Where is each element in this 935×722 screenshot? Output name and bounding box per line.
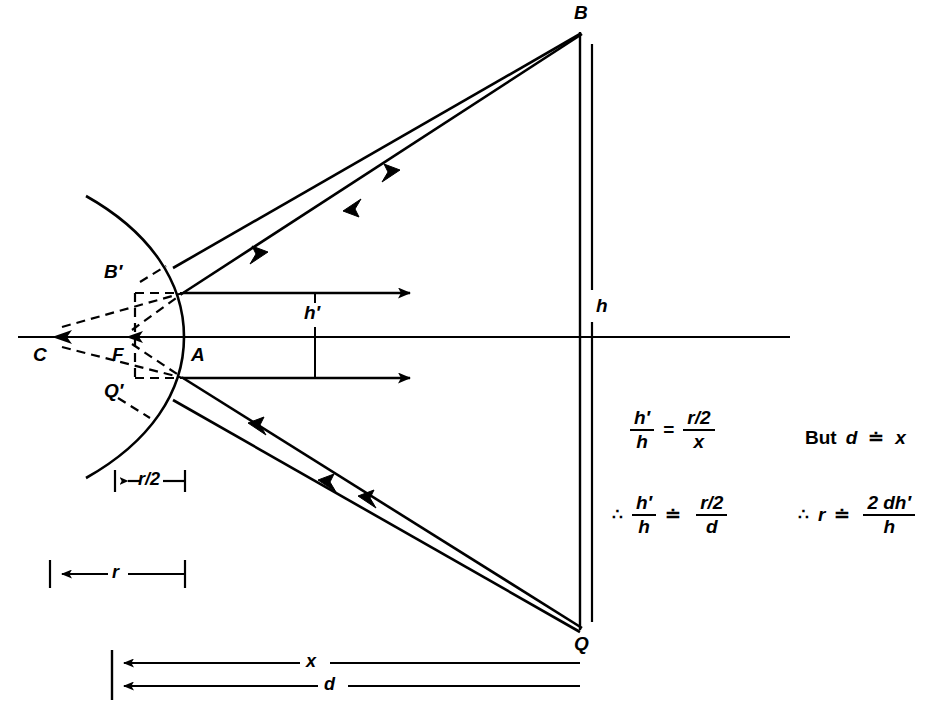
eq4-rhs-numerator: 2 dh′ <box>863 493 915 514</box>
equation-block: h′ h = r/2 x But d ≐ x ∴ <box>612 408 932 558</box>
dashed-qprime-extension <box>118 398 150 418</box>
fraction-h-prime-over-h-2: h′ h <box>632 493 656 537</box>
eq2-right: x <box>895 427 906 449</box>
fraction-h-prime-over-h: h′ h <box>630 408 654 452</box>
eq3-rhs-denominator: d <box>696 514 727 537</box>
lower-ray-pair <box>173 378 582 632</box>
equation-1: h′ h = r/2 x <box>630 408 715 452</box>
eq4-rhs-denominator: h <box>863 514 915 537</box>
upper-reflected-ray <box>183 34 582 293</box>
object-and-h-lines <box>580 32 592 630</box>
figure-canvas: B Q A C F B′ Q′ h h′ r/2 r x d h′ h = r/… <box>0 0 935 722</box>
upper-ray-pair <box>173 34 582 293</box>
eq2-relation: ≐ <box>866 426 886 449</box>
label-point-A: A <box>191 345 205 364</box>
upper-incident-arrowhead <box>382 164 400 182</box>
label-x: x <box>306 652 316 670</box>
equation-2: But d ≐ x <box>805 426 906 449</box>
upper-ray-arrowheads <box>250 164 400 264</box>
dashed-f-to-mirror-top <box>132 293 183 330</box>
label-point-Q: Q <box>574 634 589 653</box>
equation-3: ∴ h′ h ≐ r/2 d <box>612 493 727 537</box>
lower-incident-ray <box>173 400 580 632</box>
dashed-bprime-extension <box>140 266 166 282</box>
eq1-lhs-denominator: h <box>630 429 654 452</box>
eq3-therefore: ∴ <box>612 504 623 525</box>
eq1-rhs-numerator: r/2 <box>683 408 714 429</box>
eq1-lhs-numerator: h′ <box>630 408 654 429</box>
eq4-therefore: ∴ <box>798 504 809 525</box>
eq2-left: d <box>846 427 858 449</box>
dashed-c-to-mirror-top <box>62 293 183 327</box>
label-point-C: C <box>33 345 47 364</box>
eq4-left: r <box>818 504 825 526</box>
upper-incident-ray <box>173 34 580 268</box>
fraction-2dh-prime-over-h: 2 dh′ h <box>863 493 915 537</box>
eq1-relation: = <box>661 419 676 441</box>
eq3-rhs-numerator: r/2 <box>696 493 727 514</box>
label-r-over-2: r/2 <box>138 470 160 488</box>
lower-ray-arrowhead-3 <box>358 490 376 508</box>
ray-diagram-svg <box>0 0 935 722</box>
label-point-B: B <box>574 3 588 22</box>
upper-reflected-arrowhead <box>343 199 361 217</box>
label-r: r <box>112 563 119 581</box>
equation-4: ∴ r ≐ 2 dh′ h <box>798 493 915 537</box>
label-point-F: F <box>112 345 124 364</box>
lower-reflected-ray <box>183 378 582 628</box>
parallel-rays <box>183 293 410 378</box>
label-point-Q-prime: Q′ <box>104 381 123 400</box>
label-point-B-prime: B′ <box>104 262 122 281</box>
eq4-relation: ≐ <box>832 503 852 526</box>
eq2-prefix: But <box>805 427 837 449</box>
eq3-lhs-numerator: h′ <box>632 493 656 514</box>
eq1-rhs-denominator: x <box>683 429 714 452</box>
fraction-r-half-over-d: r/2 d <box>696 493 727 537</box>
label-h: h <box>596 296 608 315</box>
eq3-relation: ≐ <box>663 503 683 526</box>
eq3-lhs-denominator: h <box>632 514 656 537</box>
label-h-prime: h′ <box>304 303 320 322</box>
x-d-dimensions <box>112 650 580 700</box>
dashed-f-to-mirror-bottom <box>132 344 183 378</box>
label-d: d <box>324 675 335 693</box>
fraction-r-half-over-x: r/2 x <box>683 408 714 452</box>
